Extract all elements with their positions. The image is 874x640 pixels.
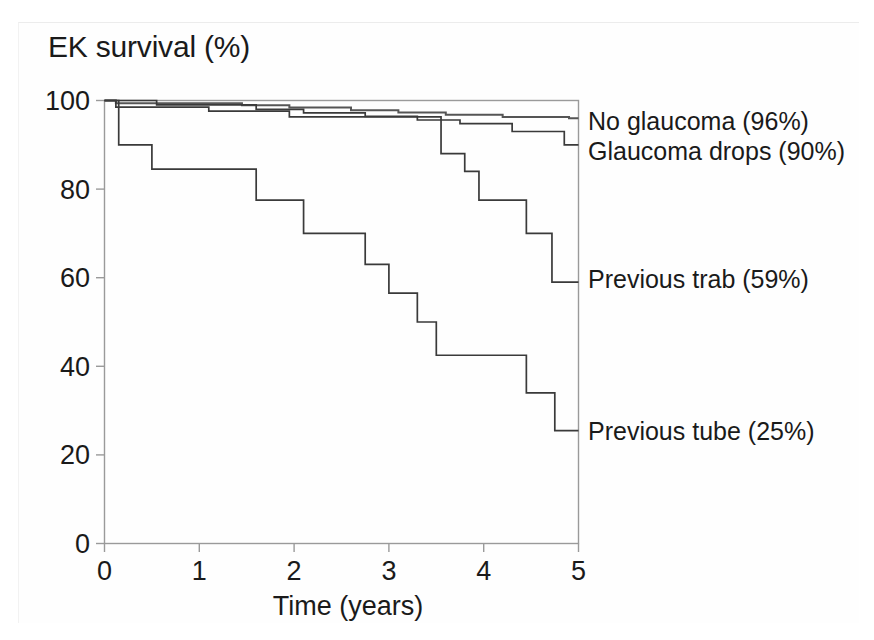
annotation-previous-tube: Previous tube (25%) xyxy=(588,417,815,445)
curve-previous-tube xyxy=(105,101,579,431)
plot-frame xyxy=(105,101,579,544)
y-tick-label-60: 60 xyxy=(60,263,90,293)
y-axis-ticks xyxy=(96,101,105,544)
annotation-no-glaucoma: No glaucoma (96%) xyxy=(588,107,809,135)
x-tick-label-4: 4 xyxy=(476,556,491,586)
survival-curves xyxy=(105,101,579,431)
annotation-previous-trab: Previous trab (59%) xyxy=(588,265,809,293)
figure-page: EK survival (%) 100 80 60 40 20 0 xyxy=(0,0,874,640)
x-tick-label-3: 3 xyxy=(381,556,396,586)
y-tick-label-40: 40 xyxy=(60,352,90,382)
curve-previous-trab xyxy=(105,101,579,283)
x-tick-label-0: 0 xyxy=(97,556,112,586)
y-tick-label-80: 80 xyxy=(60,175,90,205)
y-tick-label-0: 0 xyxy=(75,529,90,559)
curve-no-glaucoma xyxy=(105,101,579,119)
survival-chart: 100 80 60 40 20 0 0 1 2 3 4 5 Time (year… xyxy=(0,0,874,640)
x-tick-label-2: 2 xyxy=(287,556,302,586)
y-tick-label-100: 100 xyxy=(45,86,90,116)
y-tick-label-20: 20 xyxy=(60,440,90,470)
annotation-glaucoma-drops: Glaucoma drops (90%) xyxy=(588,137,845,165)
x-tick-label-1: 1 xyxy=(192,556,207,586)
x-tick-label-5: 5 xyxy=(571,556,586,586)
x-axis-ticks xyxy=(105,544,579,553)
x-axis-title: Time (years) xyxy=(273,591,424,621)
